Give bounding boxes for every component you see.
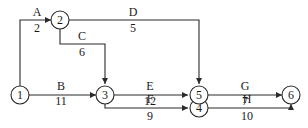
node-2-label: 2 [57,13,63,27]
node-3-label: 3 [102,88,108,102]
label-b-name: B [57,79,65,93]
node-6-label: 6 [288,88,294,102]
label-d-duration: 5 [130,21,136,35]
node-5: 5 [190,86,208,104]
label-a-name: A [33,5,42,19]
node-3: 3 [96,86,114,104]
node-5-label: 5 [196,88,202,102]
label-c-name: C [78,29,86,43]
node-1: 1 [11,86,29,104]
label-f-name: F [147,92,154,106]
label-d-name: D [129,5,138,19]
label-e-name: E [146,79,153,93]
label-h-duration: 10 [241,109,253,123]
network-diagram: A 2 B 11 C 6 D 5 E 12 F 9 G 7 H 10 1 2 3… [0,0,308,128]
node-2: 2 [51,11,69,29]
node-6: 6 [282,86,300,104]
label-a-duration: 2 [34,21,40,35]
label-b-duration: 11 [55,94,67,108]
label-g-name: G [241,79,250,93]
node-1-label: 1 [17,88,23,102]
label-c-duration: 6 [79,45,85,59]
label-h-name: H [243,92,252,106]
label-f-duration: 9 [147,109,153,123]
